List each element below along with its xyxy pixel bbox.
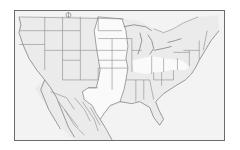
map-frame — [14, 10, 225, 141]
us-outline-map — [15, 11, 224, 140]
